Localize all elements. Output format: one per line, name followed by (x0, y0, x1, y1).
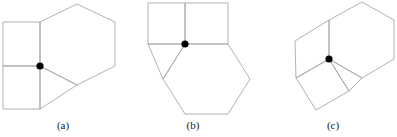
figure-group-c (0, 0, 397, 137)
figure-panel: (a) (b) (c) (0, 0, 397, 137)
figure-c-marked-vertex (325, 55, 332, 62)
figure-label-a: (a) (48, 120, 78, 131)
figure-c-square-lower (296, 59, 349, 110)
figure-c-triangle (329, 59, 362, 91)
figure-label-c: (c) (318, 120, 348, 131)
figure-label-b: (b) (178, 120, 208, 131)
figure-c-hexagon (329, 2, 394, 78)
figure-c-canvas (0, 0, 397, 137)
